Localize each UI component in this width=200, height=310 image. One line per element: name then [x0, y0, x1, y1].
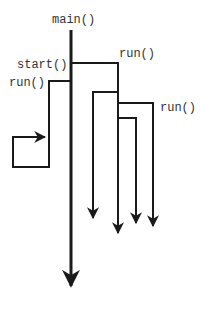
loop-arrow — [13, 81, 71, 167]
main-label: main() — [52, 13, 95, 27]
run-top-label: run() — [119, 47, 155, 61]
run-left-label: run() — [9, 76, 45, 90]
left-run-branch — [13, 81, 71, 167]
start-label: start() — [17, 58, 67, 72]
thread-arrow — [118, 118, 136, 223]
thread-diagram: main() start() run() run() run() — [0, 0, 200, 310]
run-right-label: run() — [160, 101, 196, 115]
thread-arrow — [93, 92, 118, 218]
top-run-branch — [71, 63, 153, 233]
thread-arrow — [71, 63, 118, 233]
